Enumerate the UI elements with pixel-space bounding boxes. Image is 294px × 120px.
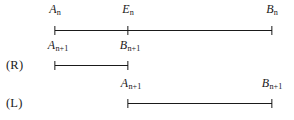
interval-line-0 (55, 30, 272, 31)
tick-mark (54, 26, 55, 35)
endpoint-label: An+1 (48, 39, 68, 51)
tick-mark (127, 26, 128, 35)
tick-mark (54, 61, 55, 70)
endpoint-label-symbol: B (120, 38, 127, 52)
endpoint-label-symbol: A (121, 76, 128, 90)
endpoint-label-symbol: A (48, 38, 55, 52)
endpoint-label-subscript: n+1 (127, 44, 140, 53)
interval-line-1 (55, 65, 128, 66)
endpoint-label-subscript: n+1 (269, 82, 282, 91)
endpoint-label: En (122, 3, 134, 15)
endpoint-label: Bn (266, 3, 278, 15)
endpoint-label: An (49, 3, 61, 15)
endpoint-label: An+1 (121, 77, 141, 89)
tick-mark (127, 99, 128, 108)
endpoint-label-subscript: n+1 (55, 44, 68, 53)
endpoint-label-subscript: n+1 (128, 82, 141, 91)
endpoint-label-subscript: n (274, 8, 278, 17)
tick-mark (127, 61, 128, 70)
endpoint-label-symbol: B (266, 2, 273, 16)
case-label-r: (R) (6, 58, 23, 73)
interval-line-2 (128, 103, 272, 104)
endpoint-label-symbol: E (122, 2, 129, 16)
tick-mark (271, 99, 272, 108)
endpoint-label-subscript: n (57, 8, 61, 17)
endpoint-label-subscript: n (130, 8, 134, 17)
endpoint-label-symbol: A (49, 2, 56, 16)
endpoint-label-symbol: B (262, 76, 269, 90)
endpoint-label: Bn+1 (262, 77, 282, 89)
case-label-l: (L) (6, 96, 23, 111)
endpoint-label: Bn+1 (120, 39, 140, 51)
tick-mark (271, 26, 272, 35)
interval-bisection-diagram: AnEnBn(R)An+1Bn+1(L)An+1Bn+1 (0, 0, 294, 120)
